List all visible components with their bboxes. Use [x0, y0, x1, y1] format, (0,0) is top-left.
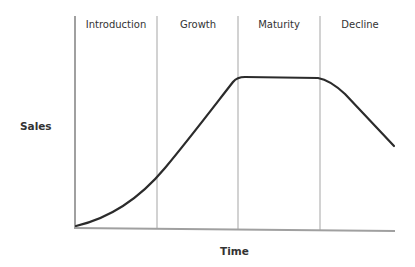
product-life-cycle-chart: Introduction Growth Maturity Decline Sal… — [0, 0, 415, 267]
stage-label-growth: Growth — [158, 19, 238, 30]
stage-label-introduction: Introduction — [76, 19, 156, 30]
stage-label-maturity: Maturity — [239, 19, 319, 30]
sales-curve — [76, 77, 394, 226]
x-axis — [74, 228, 395, 231]
x-axis-label: Time — [220, 245, 249, 257]
stage-label-decline: Decline — [320, 19, 400, 30]
chart-canvas — [0, 0, 415, 267]
y-axis-label: Sales — [20, 120, 52, 132]
